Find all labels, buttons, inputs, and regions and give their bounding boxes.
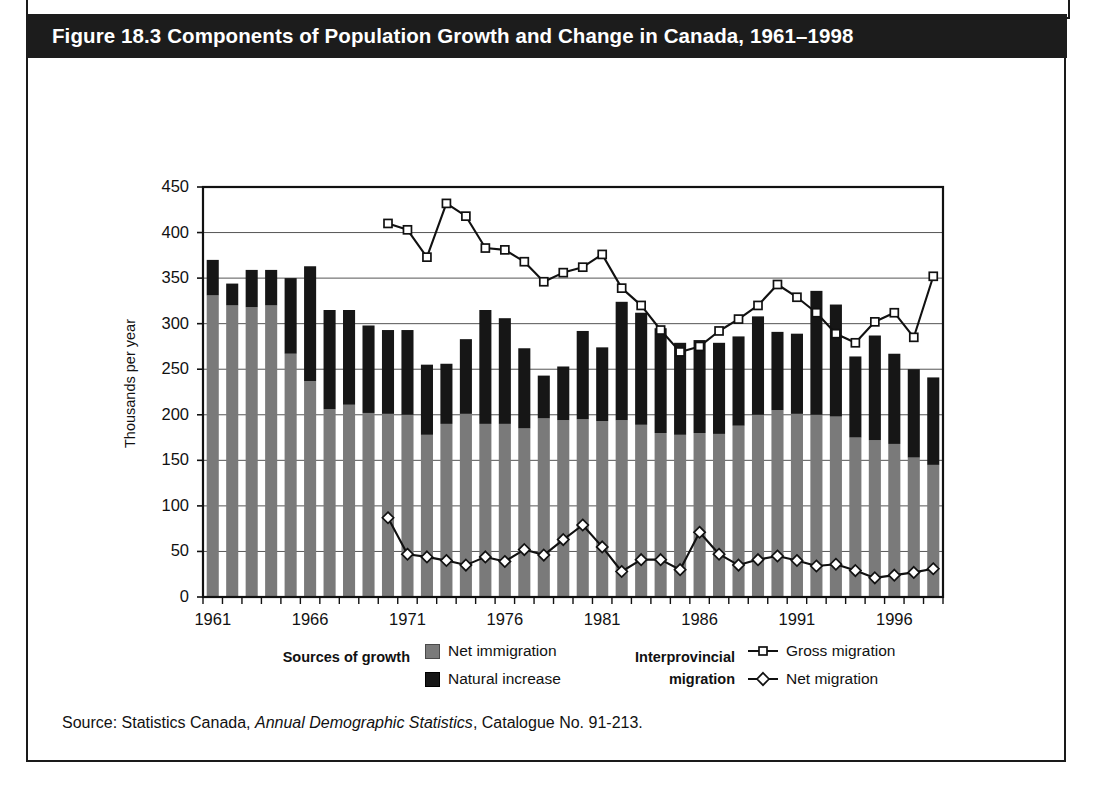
- y-tick-label-0: 0: [143, 588, 189, 605]
- source-suffix: , Catalogue No. 91-213.: [473, 714, 643, 731]
- marker-gross-migration-1977: [520, 258, 528, 266]
- source-prefix: Source: Statistics Canada,: [62, 714, 255, 731]
- bar-segment-net-immigration: [246, 307, 258, 597]
- marker-gross-migration-1976: [501, 246, 509, 254]
- bar-1980: [577, 331, 589, 597]
- marker-gross-migration-1991: [793, 293, 801, 301]
- marker-gross-migration-1970: [384, 219, 392, 227]
- legend-label: Natural increase: [448, 670, 561, 688]
- bar-segment-net-immigration: [538, 418, 550, 597]
- bar-segment-natural-increase: [324, 310, 336, 409]
- x-tick-label-1981: 1981: [567, 611, 637, 628]
- bars-group: [207, 260, 940, 597]
- legend-entry-net-immigration: Net immigration: [425, 642, 557, 660]
- marker-gross-migration-1995: [871, 318, 879, 326]
- legend-entry-gross-migration: Gross migration: [748, 642, 895, 660]
- bar-segment-natural-increase: [226, 284, 238, 306]
- bar-segment-natural-increase: [869, 336, 881, 441]
- marker-gross-migration-1987: [715, 327, 723, 335]
- bar-1993: [830, 305, 842, 597]
- legend-label: Net immigration: [448, 642, 557, 660]
- bar-segment-natural-increase: [421, 365, 433, 435]
- bar-segment-natural-increase: [440, 364, 452, 424]
- bar-1967: [324, 310, 336, 597]
- y-tick-label-250: 250: [143, 360, 189, 377]
- bar-segment-net-immigration: [927, 465, 939, 597]
- x-tick-label-1986: 1986: [665, 611, 735, 628]
- legend-group-title-sources-of-growth: Sources of growth: [230, 648, 410, 666]
- legend-entry-net-migration: Net migration: [748, 670, 878, 688]
- legend-group-title-interprovincial: Interprovincial: [560, 648, 735, 666]
- marker-gross-migration-1993: [832, 330, 840, 338]
- bar-segment-natural-increase: [771, 332, 783, 410]
- bar-1979: [557, 366, 569, 597]
- marker-gross-migration-1983: [637, 301, 645, 309]
- bar-segment-natural-increase: [694, 340, 706, 433]
- bar-segment-natural-increase: [635, 313, 647, 425]
- bar-segment-natural-increase: [888, 354, 900, 444]
- legend-marker-net-migration-icon: [748, 671, 778, 687]
- y-tick-label-200: 200: [143, 406, 189, 423]
- bar-segment-net-immigration: [421, 435, 433, 597]
- bar-1985: [674, 343, 686, 597]
- bar-segment-net-immigration: [752, 415, 764, 597]
- bar-1963: [246, 270, 258, 597]
- bar-segment-natural-increase: [207, 260, 219, 296]
- bar-segment-net-immigration: [771, 410, 783, 597]
- marker-gross-migration-1980: [579, 263, 587, 271]
- x-tick-label-1996: 1996: [859, 611, 929, 628]
- bar-segment-natural-increase: [577, 331, 589, 419]
- bar-segment-natural-increase: [849, 356, 861, 437]
- bar-1997: [908, 369, 920, 597]
- bar-segment-natural-increase: [518, 348, 530, 428]
- bar-segment-net-immigration: [382, 414, 394, 597]
- bar-segment-net-immigration: [499, 424, 511, 597]
- bar-1994: [849, 356, 861, 597]
- bar-segment-net-immigration: [226, 305, 238, 597]
- source-publication: Annual Demographic Statistics: [255, 714, 473, 731]
- bar-1968: [343, 310, 355, 597]
- bar-segment-natural-increase: [382, 330, 394, 414]
- marker-gross-migration-1971: [403, 226, 411, 234]
- bar-segment-net-immigration: [343, 405, 355, 597]
- bar-segment-natural-increase: [927, 377, 939, 464]
- bar-segment-net-immigration: [713, 434, 725, 597]
- bar-segment-net-immigration: [401, 415, 413, 597]
- bar-segment-natural-increase: [401, 330, 413, 415]
- bar-1965: [285, 278, 297, 597]
- y-tick-label-100: 100: [143, 497, 189, 514]
- bar-segment-net-immigration: [324, 409, 336, 597]
- bar-1969: [362, 325, 374, 597]
- x-tick-label-1961: 1961: [178, 611, 248, 628]
- marker-gross-migration-1990: [773, 280, 781, 288]
- bar-segment-natural-increase: [713, 343, 725, 434]
- marker-gross-migration-1981: [598, 250, 606, 258]
- bar-segment-natural-increase: [616, 302, 628, 420]
- legend-label: Net migration: [786, 670, 878, 688]
- source-note: Source: Statistics Canada, Annual Demogr…: [62, 714, 643, 732]
- marker-gross-migration-1974: [462, 212, 470, 220]
- y-tick-label-50: 50: [143, 542, 189, 559]
- x-tick-label-1991: 1991: [762, 611, 832, 628]
- bar-segment-net-immigration: [635, 425, 647, 597]
- bar-1970: [382, 330, 394, 597]
- bar-segment-net-immigration: [655, 433, 667, 597]
- bar-segment-net-immigration: [479, 424, 491, 597]
- bar-1982: [616, 302, 628, 597]
- bar-1962: [226, 284, 238, 597]
- bar-segment-natural-increase: [557, 366, 569, 420]
- bar-1986: [694, 340, 706, 597]
- x-tick-label-1971: 1971: [372, 611, 442, 628]
- bar-1981: [596, 347, 608, 597]
- y-tick-label-350: 350: [143, 269, 189, 286]
- bar-segment-natural-increase: [304, 266, 316, 381]
- marker-gross-migration-1998: [929, 272, 937, 280]
- bar-segment-net-immigration: [577, 419, 589, 597]
- bar-segment-net-immigration: [791, 414, 803, 597]
- marker-gross-migration-1985: [676, 348, 684, 356]
- bar-segment-natural-increase: [246, 270, 258, 307]
- bar-1961: [207, 260, 219, 597]
- bar-segment-natural-increase: [285, 278, 297, 354]
- marker-gross-migration-1988: [735, 315, 743, 323]
- bar-1996: [888, 354, 900, 597]
